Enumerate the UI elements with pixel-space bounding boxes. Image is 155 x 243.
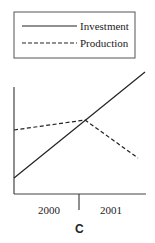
investment-line <box>14 72 145 178</box>
legend-investment-label: Investment <box>80 20 129 32</box>
legend-production-label: Production <box>80 37 129 49</box>
tick-label-2001: 2001 <box>100 204 122 216</box>
panel-label: C <box>75 222 84 236</box>
tick-label-2000: 2000 <box>38 204 61 216</box>
legend-box <box>14 12 135 58</box>
production-line <box>14 120 138 158</box>
chart: Investment Production 2000 2001 C <box>0 0 155 243</box>
